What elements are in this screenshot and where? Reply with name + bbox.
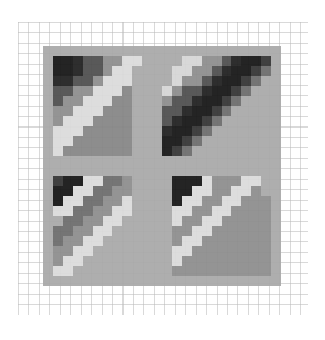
heatmap-panel [43, 46, 281, 286]
figure-canvas [0, 0, 325, 340]
heatmap-image [43, 46, 281, 286]
